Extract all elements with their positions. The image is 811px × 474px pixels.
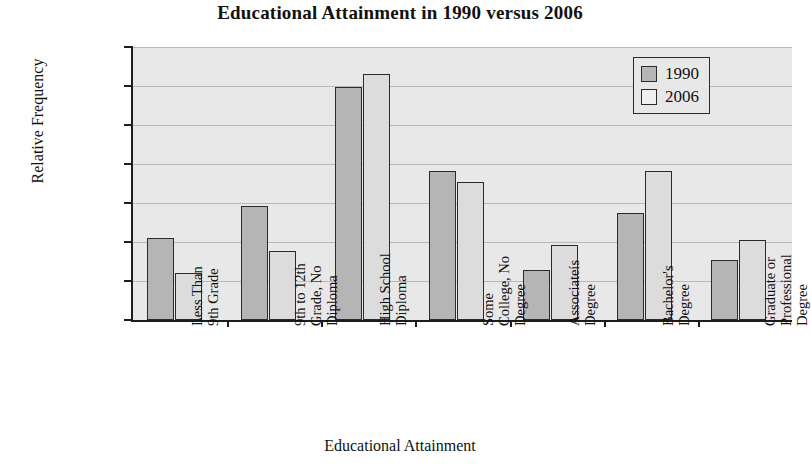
y-axis-tick: [124, 85, 133, 87]
x-axis-tick: [227, 320, 229, 327]
x-axis-label-line: Degree: [512, 256, 528, 326]
x-axis-label-line: High School: [377, 253, 393, 326]
x-axis-label-line: Graduate or: [762, 254, 778, 326]
x-axis-category-label-6: Graduate orProfessionalDegree: [762, 254, 811, 326]
legend-swatch-1990-icon: [641, 66, 657, 82]
x-axis-label-line: Grade, No: [308, 263, 324, 326]
bar-1990-6: [711, 260, 738, 320]
y-axis-tick: [124, 46, 133, 48]
bar-1990-1: [241, 206, 268, 320]
x-axis-label-line: Diploma: [324, 263, 340, 326]
bar-1990-5: [617, 213, 644, 320]
gridline: [133, 125, 792, 126]
x-axis-label-line: Associateís: [566, 260, 582, 326]
x-axis-label-line: Less Than: [189, 266, 205, 326]
x-axis-category-label-3: SomeCollege, NoDegree: [480, 256, 529, 326]
chart-title: Educational Attainment in 1990 versus 20…: [0, 2, 800, 24]
x-axis-category-label-0: Less Than9th Grade: [189, 266, 221, 326]
legend-swatch-2006-icon: [641, 89, 657, 105]
chart-legend: 1990 2006: [633, 57, 710, 114]
y-axis-tick: [124, 124, 133, 126]
y-axis-tick: [124, 202, 133, 204]
legend-label-1990: 1990: [665, 64, 699, 84]
y-axis-tick: [124, 280, 133, 282]
x-axis-category-label-1: 9th to 12thGrade, NoDiploma: [292, 263, 341, 326]
x-axis-tick: [698, 320, 700, 327]
x-axis-tick: [604, 320, 606, 327]
x-axis-label-line: Degree: [582, 260, 598, 326]
gridline: [133, 47, 792, 48]
y-axis-tick: [124, 241, 133, 243]
legend-item-2006: 2006: [641, 85, 699, 108]
x-axis-title: Educational Attainment: [0, 437, 800, 455]
x-axis-category-label-4: AssociateísDegree: [566, 260, 598, 326]
legend-item-1990: 1990: [641, 62, 699, 85]
bar-1990-3: [429, 171, 456, 320]
legend-label-2006: 2006: [665, 87, 699, 107]
x-axis-label-line: 9th Grade: [205, 266, 221, 326]
x-axis-label-line: Degree: [795, 254, 811, 326]
x-axis-label-line: Degree: [676, 265, 692, 326]
y-axis-tick: [124, 319, 133, 321]
x-axis-label-line: Some: [480, 256, 496, 326]
x-axis-label-line: Diploma: [394, 253, 410, 326]
x-axis-label-line: College, No: [496, 256, 512, 326]
y-axis-title: Relative Frequency: [29, 21, 47, 221]
x-axis-category-label-2: High SchoolDiploma: [377, 253, 409, 326]
bar-1990-0: [147, 238, 174, 320]
x-axis-label-line: 9th to 12th: [292, 263, 308, 326]
x-axis-label-line: Bachelor's: [660, 265, 676, 326]
y-axis-tick: [124, 163, 133, 165]
gridline: [133, 164, 792, 165]
x-axis-label-line: Professional: [779, 254, 795, 326]
x-axis-category-label-5: Bachelor'sDegree: [660, 265, 692, 326]
x-axis-tick: [415, 320, 417, 327]
